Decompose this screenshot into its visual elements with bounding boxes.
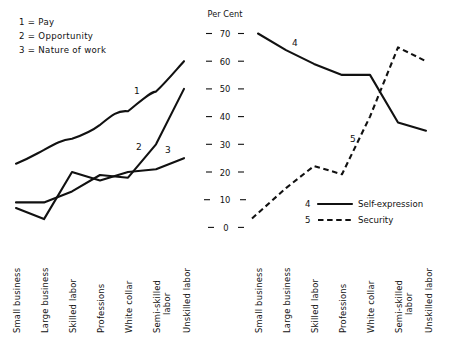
key-line-nature-of-work: 3 = Nature of work bbox=[19, 45, 106, 55]
series-line-opportunity bbox=[16, 89, 184, 202]
y-tick-60: 60 bbox=[206, 57, 244, 67]
chart-figure: 1 = Pay 2 = Opportunity 3 = Nature of wo… bbox=[0, 0, 453, 339]
center-axis: Per Cent 70 60 50 40 bbox=[204, 9, 246, 233]
legend-key-4: 4 bbox=[305, 199, 310, 209]
category-label-skilled-labor: Skilled labor bbox=[310, 278, 320, 333]
category-label-semi-skilled-labor: Semi-skilledlabor bbox=[152, 280, 172, 333]
y-tick-label: 40 bbox=[220, 112, 231, 122]
curve-label-2: 2 bbox=[136, 142, 142, 152]
category-label-professions: Professions bbox=[96, 284, 106, 333]
category-label-semi-skilled-labor: Semi-skilledlabor bbox=[394, 280, 414, 333]
legend: 4 Self-expression 5 Security bbox=[305, 199, 423, 225]
curve-key: 1 = Pay 2 = Opportunity 3 = Nature of wo… bbox=[19, 17, 106, 55]
axis-title-per-cent: Per Cent bbox=[208, 9, 244, 19]
y-tick-label: 60 bbox=[220, 57, 231, 67]
category-label-skilled-labor: Skilled labor bbox=[68, 278, 78, 333]
series-line-pay bbox=[16, 61, 184, 164]
legend-label-self-expression: Self-expression bbox=[358, 199, 423, 209]
category-label-white-collar: White collar bbox=[124, 280, 134, 333]
y-tick-label: 50 bbox=[220, 84, 231, 94]
category-label-professions: Professions bbox=[338, 284, 348, 333]
y-tick-label: 70 bbox=[220, 29, 231, 39]
legend-label-security: Security bbox=[358, 215, 393, 225]
series-line-self-expression bbox=[258, 34, 426, 131]
y-tick-30: 30 bbox=[206, 140, 244, 150]
key-line-pay: 1 = Pay bbox=[19, 17, 54, 27]
right-panel-category-labels: Small business Large business Skilled la… bbox=[254, 267, 434, 333]
figure-canvas: 1 = Pay 2 = Opportunity 3 = Nature of wo… bbox=[0, 0, 453, 339]
category-label-unskilled-labor: Unskilled labor bbox=[182, 268, 192, 333]
curve-label-3: 3 bbox=[165, 145, 171, 155]
y-tick-20: 20 bbox=[206, 168, 244, 178]
y-tick-40: 40 bbox=[206, 112, 244, 122]
y-tick-50: 50 bbox=[206, 84, 244, 94]
legend-key-5: 5 bbox=[305, 215, 310, 225]
y-tick-label: 20 bbox=[220, 168, 231, 178]
category-label-small-business: Small business bbox=[12, 268, 22, 333]
curve-label-1: 1 bbox=[134, 86, 140, 96]
left-panel-category-labels: Small business Large business Skilled la… bbox=[12, 267, 192, 333]
category-label-large-business: Large business bbox=[282, 267, 292, 333]
key-line-opportunity: 2 = Opportunity bbox=[19, 31, 93, 41]
y-tick-label: 30 bbox=[220, 140, 231, 150]
category-label-unskilled-labor: Unskilled labor bbox=[424, 268, 434, 333]
category-label-large-business: Large business bbox=[40, 267, 50, 333]
category-label-white-collar: White collar bbox=[366, 280, 376, 333]
legend-item-security[interactable]: 5 Security bbox=[305, 215, 393, 225]
y-tick-label: 0 bbox=[223, 223, 228, 233]
y-tick-10: 10 bbox=[204, 195, 246, 205]
curve-label-4: 4 bbox=[292, 38, 298, 48]
category-label-small-business: Small business bbox=[254, 268, 264, 333]
y-tick-0: 0 bbox=[208, 223, 244, 233]
left-panel-series: 1 2 3 bbox=[16, 61, 184, 219]
series-line-nature-of-work bbox=[16, 158, 184, 219]
y-tick-label: 10 bbox=[220, 195, 231, 205]
curve-label-5: 5 bbox=[350, 134, 356, 144]
right-panel-series: 4 5 bbox=[252, 34, 426, 219]
legend-item-self-expression[interactable]: 4 Self-expression bbox=[305, 199, 423, 209]
y-tick-70: 70 bbox=[206, 29, 244, 39]
